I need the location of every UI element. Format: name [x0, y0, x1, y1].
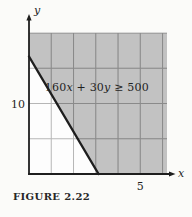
y-axis-arrow-icon: [26, 14, 31, 21]
figure-2-22: 510yx160x + 30y ≥ 500 FIGURE 2.22: [0, 0, 192, 217]
x-axis-title: x: [178, 167, 185, 180]
figure-caption: FIGURE 2.22: [13, 191, 90, 202]
y-axis-title: y: [33, 4, 41, 17]
x-axis-arrow-icon: [169, 171, 176, 176]
inequality-graph: 510yx160x + 30y ≥ 500: [0, 0, 192, 217]
x-tick-label: 5: [137, 180, 144, 193]
inequality-annotation: 160x + 30y ≥ 500: [45, 81, 149, 94]
y-tick-label: 10: [11, 98, 25, 111]
